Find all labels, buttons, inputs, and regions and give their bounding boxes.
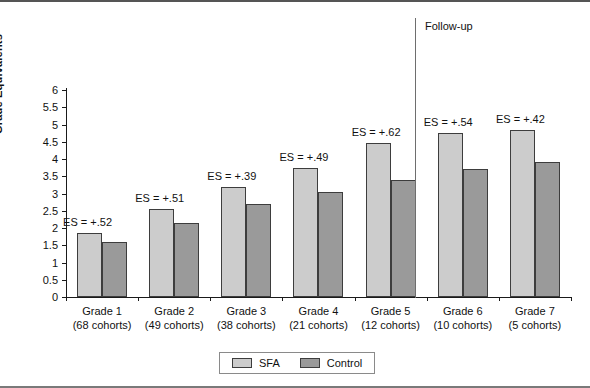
- bar-sfa-grade-2[interactable]: [149, 209, 174, 297]
- legend-label: SFA: [259, 357, 280, 369]
- bar-control-grade-3[interactable]: [246, 204, 271, 297]
- category-sublabel: (68 cohorts): [73, 318, 132, 332]
- y-tick-label: 0.5: [43, 272, 58, 288]
- bar-control-grade-4[interactable]: [318, 192, 343, 297]
- category-sublabel: (38 cohorts): [217, 318, 276, 332]
- category-name: Grade 3: [217, 304, 276, 318]
- x-axis-tick: [355, 297, 356, 301]
- y-tick-label: 2.5: [43, 203, 58, 219]
- y-tick-label: 4: [52, 151, 58, 167]
- bar-pair: ES = +.52: [66, 90, 138, 297]
- chart-legend: SFAControl: [219, 352, 375, 374]
- y-tick-label: 4.5: [43, 134, 58, 150]
- category-name: Grade 5: [361, 304, 420, 318]
- bar-sfa-grade-4[interactable]: [293, 168, 318, 297]
- followup-divider-line: [415, 18, 416, 298]
- bar-sfa-grade-6[interactable]: [438, 133, 463, 297]
- effect-size-label: ES = +.51: [135, 192, 184, 205]
- y-tick-label: 3: [52, 186, 58, 202]
- category-name: Grade 1: [73, 304, 132, 318]
- bar-pair: ES = +.49: [282, 90, 354, 297]
- x-axis-category-label: Grade 5(12 cohorts): [361, 304, 420, 332]
- legend-item-control[interactable]: Control: [300, 357, 362, 369]
- x-axis-category-label: Grade 2(49 cohorts): [145, 304, 204, 332]
- bar-group: ES = +.52Grade 1(68 cohorts): [66, 90, 138, 297]
- bar-group: ES = +.54Grade 6(10 cohorts): [427, 90, 499, 297]
- followup-label: Follow-up: [425, 20, 473, 32]
- x-axis-tick: [282, 297, 283, 301]
- y-tick-label: 5: [52, 117, 58, 133]
- category-sublabel: (10 cohorts): [433, 318, 492, 332]
- effect-size-label: ES = +.54: [424, 116, 473, 129]
- bar-group: ES = +.42Grade 7(5 cohorts): [499, 90, 571, 297]
- effect-size-label: ES = +.42: [496, 113, 545, 126]
- x-axis-line: [66, 297, 572, 298]
- effect-size-label: ES = +.52: [63, 216, 112, 229]
- x-axis-category-label: Grade 4(21 cohorts): [289, 304, 348, 332]
- x-axis-category-label: Grade 1(68 cohorts): [73, 304, 132, 332]
- chart-figure: Grade Equivalents 65.554.543.532.521.510…: [0, 0, 590, 388]
- bar-control-grade-6[interactable]: [463, 169, 488, 297]
- x-axis-tick: [210, 297, 211, 301]
- category-sublabel: (49 cohorts): [145, 318, 204, 332]
- category-sublabel: (21 cohorts): [289, 318, 348, 332]
- bar-pair: ES = +.42: [499, 90, 571, 297]
- category-name: Grade 2: [145, 304, 204, 318]
- effect-size-label: ES = +.49: [280, 151, 329, 164]
- category-name: Grade 7: [509, 304, 562, 318]
- x-axis-category-label: Grade 7(5 cohorts): [509, 304, 562, 332]
- legend-label: Control: [327, 357, 362, 369]
- bar-control-grade-1[interactable]: [102, 242, 127, 297]
- category-name: Grade 4: [289, 304, 348, 318]
- x-axis-tick: [571, 297, 572, 301]
- effect-size-label: ES = +.39: [207, 170, 256, 183]
- bar-group: ES = +.51Grade 2(49 cohorts): [138, 90, 210, 297]
- bar-control-grade-5[interactable]: [391, 180, 416, 297]
- legend-item-sfa[interactable]: SFA: [232, 357, 280, 369]
- legend-swatch-icon: [232, 358, 252, 368]
- legend-swatch-icon: [300, 358, 320, 368]
- bar-pair: ES = +.51: [138, 90, 210, 297]
- effect-size-label: ES = +.62: [352, 126, 401, 139]
- y-tick-label: 0: [52, 289, 58, 305]
- plot-area: 65.554.543.532.521.510.50 ES = +.52Grade…: [66, 90, 571, 297]
- bar-pair: ES = +.54: [427, 90, 499, 297]
- y-tick-label: 1: [52, 255, 58, 271]
- bar-group: ES = +.49Grade 4(21 cohorts): [282, 90, 354, 297]
- y-axis-title: Grade Equivalents: [0, 34, 4, 134]
- category-name: Grade 6: [433, 304, 492, 318]
- y-tick-label: 3.5: [43, 168, 58, 184]
- category-sublabel: (5 cohorts): [509, 318, 562, 332]
- x-axis-category-label: Grade 6(10 cohorts): [433, 304, 492, 332]
- x-axis-tick: [427, 297, 428, 301]
- bar-sfa-grade-3[interactable]: [221, 187, 246, 297]
- x-axis-tick: [499, 297, 500, 301]
- y-tick-label: 5.5: [43, 99, 58, 115]
- y-tick-label: 2: [52, 220, 58, 236]
- y-tick-label: 1.5: [43, 237, 58, 253]
- bar-sfa-grade-7[interactable]: [510, 130, 535, 297]
- bar-control-grade-7[interactable]: [535, 162, 560, 297]
- y-tick-label: 6: [52, 82, 58, 98]
- x-axis-tick: [138, 297, 139, 301]
- bar-group: ES = +.39Grade 3(38 cohorts): [210, 90, 282, 297]
- category-sublabel: (12 cohorts): [361, 318, 420, 332]
- bar-sfa-grade-5[interactable]: [366, 143, 391, 297]
- bar-control-grade-2[interactable]: [174, 223, 199, 297]
- x-axis-tick: [66, 297, 67, 301]
- bar-pair: ES = +.39: [210, 90, 282, 297]
- bar-sfa-grade-1[interactable]: [77, 233, 102, 297]
- x-axis-category-label: Grade 3(38 cohorts): [217, 304, 276, 332]
